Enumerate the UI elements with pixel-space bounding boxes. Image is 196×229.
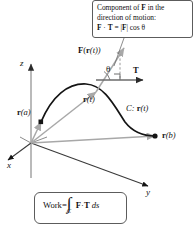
right-angle-marker [114,74,120,80]
z-axis-label: z [20,59,24,68]
x-axis-label: x [7,161,11,170]
r-of-a-label: r(a) [17,108,31,117]
callout-line-1: Component of F in the [97,3,189,13]
curve-label: C: r(t) [126,104,148,113]
tangent-vector-label: T [133,66,139,75]
work-T: T [84,200,90,210]
work-word: Work [43,200,62,210]
callout-leader-line [114,38,124,66]
work-ds: ds [92,200,100,210]
work-formula-box: Work = ∫CF · T ds [34,192,127,224]
callout-line-3: F · T = |F| cos θ [97,23,189,33]
position-vector-r-b [31,136,155,143]
r-of-b-label: r(b) [162,131,176,140]
callout-box: Component of F in the direction of motio… [92,0,193,38]
point-r-a [39,120,44,125]
y-axis [31,143,148,186]
work-formula: Work = ∫CF · T ds [43,200,99,210]
r-of-t-label: r(t) [83,95,95,104]
x-axis [8,143,31,160]
axis-stub-upper-left [20,137,31,143]
theta-label: θ [106,65,110,74]
integral-sign: ∫C [67,200,76,210]
figure-canvas: Component of F in the direction of motio… [0,0,196,229]
force-vector-label: F(r(t)) [78,46,101,55]
callout-line-2: direction of motion: [97,13,189,23]
point-r-b [152,133,157,138]
y-axis-label: y [146,188,150,197]
